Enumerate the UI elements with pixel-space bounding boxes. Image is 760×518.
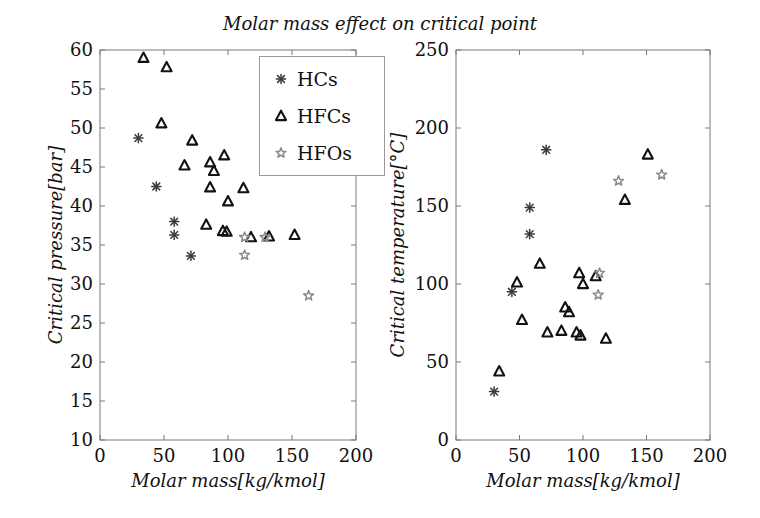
data-point-hfcs (535, 258, 545, 267)
x-tick-label: 0 (450, 445, 461, 466)
figure-canvas: Molar mass effect on critical point 0501… (0, 0, 760, 518)
data-point-hfos (595, 268, 605, 277)
data-point-hcs (525, 203, 534, 212)
legend-label-hfcs: HFCs (297, 105, 351, 127)
data-point-hcs (507, 287, 516, 296)
data-point-hfcs (494, 366, 504, 375)
data-point-hfcs (201, 219, 211, 228)
y-tick-label: 25 (70, 312, 93, 333)
y-axis-label: Critical temperature[°C] (387, 132, 408, 358)
y-tick-label: 30 (70, 273, 93, 294)
data-point-hfos (304, 291, 314, 300)
data-point-hfcs (180, 160, 190, 169)
legend-entry-hfos: HFOs (274, 142, 384, 164)
y-tick-label: 10 (70, 429, 93, 450)
x-tick-label: 200 (693, 445, 727, 466)
data-point-hfcs (512, 277, 522, 286)
x-tick-label: 50 (153, 445, 176, 466)
x-tick-label: 200 (339, 445, 373, 466)
y-tick-label: 100 (415, 273, 449, 294)
data-point-hfcs (542, 327, 552, 336)
x-axis-label: Molar mass[kg/kmol] (485, 470, 680, 491)
data-point-hcs (134, 134, 143, 143)
data-point-hfcs (574, 268, 584, 277)
legend-entry-hfcs: HFCs (274, 105, 384, 127)
data-point-hcs (170, 217, 179, 226)
y-tick-label: 250 (415, 39, 449, 60)
x-tick-label: 50 (508, 445, 531, 466)
x-tick-label: 150 (629, 445, 663, 466)
data-point-hfos (240, 232, 250, 241)
data-point-hfos (593, 290, 603, 299)
data-point-hfcs (187, 135, 197, 144)
data-point-hcs (542, 145, 551, 154)
x-tick-label: 0 (94, 445, 105, 466)
data-point-hfcs (556, 326, 566, 335)
data-point-hfcs (139, 53, 149, 62)
data-point-hfos (614, 176, 624, 185)
plot-frame (456, 50, 710, 440)
y-tick-label: 60 (70, 39, 93, 60)
y-tick-label: 0 (438, 429, 449, 450)
data-point-hfos (240, 250, 250, 259)
legend: HCs HFCs HFOs (259, 56, 385, 176)
data-point-hfcs (219, 150, 229, 159)
data-point-hfcs (517, 315, 527, 324)
data-point-hfcs (578, 279, 588, 288)
data-point-hfcs (223, 196, 233, 205)
y-axis-label: Critical pressure[bar] (45, 145, 66, 344)
legend-label-hcs: HCs (297, 68, 338, 90)
data-point-hcs (490, 387, 499, 396)
y-tick-label: 45 (70, 156, 93, 177)
data-point-hfcs (601, 333, 611, 342)
y-tick-label: 150 (415, 195, 449, 216)
legend-entry-hcs: HCs (274, 68, 384, 90)
y-tick-label: 20 (70, 351, 93, 372)
y-tick-label: 50 (426, 351, 449, 372)
legend-label-hfos: HFOs (297, 142, 352, 164)
asterisk-marker-icon (274, 72, 288, 86)
y-tick-label: 55 (70, 78, 93, 99)
data-point-hfcs (620, 195, 630, 204)
x-axis-label: Molar mass[kg/kmol] (130, 470, 325, 491)
x-tick-label: 150 (275, 445, 309, 466)
data-point-hcs (170, 230, 179, 239)
data-point-hfcs (238, 183, 248, 192)
right-plot: 050100150200050100150200250Molar mass[kg… (387, 39, 727, 491)
data-point-hfcs (205, 182, 215, 191)
data-point-hcs (186, 251, 195, 260)
y-tick-label: 40 (70, 195, 93, 216)
data-point-hcs (525, 230, 534, 239)
y-tick-label: 15 (70, 390, 93, 411)
x-tick-label: 100 (566, 445, 600, 466)
x-tick-label: 100 (211, 445, 245, 466)
data-point-hcs (152, 182, 161, 191)
data-point-hfcs (162, 62, 172, 71)
y-tick-label: 200 (415, 117, 449, 138)
y-tick-label: 50 (70, 117, 93, 138)
triangle-marker-icon (274, 109, 288, 123)
data-point-hfcs (290, 230, 300, 239)
y-tick-label: 35 (70, 234, 93, 255)
data-point-hfos (657, 170, 667, 179)
data-point-hfcs (643, 149, 653, 158)
data-point-hfcs (156, 118, 166, 127)
pentagram-marker-icon (274, 146, 288, 160)
